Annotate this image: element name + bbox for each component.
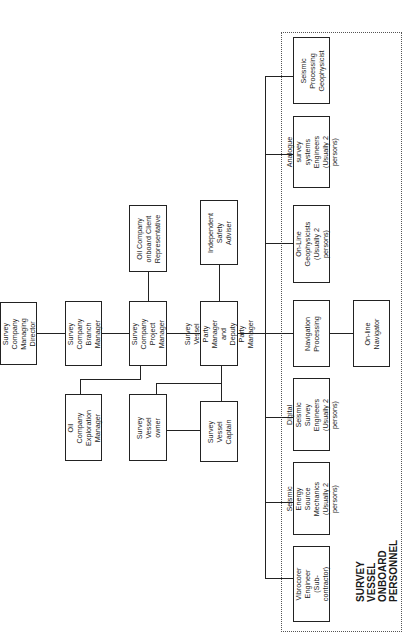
connector	[148, 272, 149, 302]
node-project-manager: Survey Company Project Manager	[129, 301, 167, 366]
node-label: Seismic Energy Source Mechanics (Usually…	[285, 481, 339, 515]
node-digital-engineers: Digital Seismic Survey Engineers (Usuall…	[293, 378, 330, 451]
node-energy-mechanics: Seismic Energy Source Mechanics (Usually…	[293, 462, 330, 535]
node-label: Survey Vessel Party Manager and Deputy P…	[183, 319, 255, 347]
bus-line	[265, 76, 266, 579]
node-label: Survey Company Project Manager	[130, 318, 166, 349]
node-label: Analogue survey systems Engineers (Usual…	[285, 136, 339, 168]
node-online-geophysicists: On-Line Geophysicists (Usually 2 persons…	[293, 205, 330, 283]
connector	[167, 430, 200, 431]
node-managing-director: Survey Company Managing Director	[0, 302, 37, 365]
connector	[80, 379, 141, 380]
node-party-manager: Survey Vessel Party Manager and Deputy P…	[200, 301, 238, 366]
node-online-navigator: On-line Navigator	[353, 300, 390, 367]
node-label: Oil Company onboard Client Representativ…	[135, 214, 162, 262]
connector	[219, 265, 220, 302]
node-label: On-line Navigator	[363, 318, 381, 349]
node-label: Vibrocorer Engineer (Sub-contractor)	[294, 567, 330, 601]
node-navigation-processing: Navigation Processing	[293, 300, 330, 367]
connector	[265, 578, 293, 579]
connector	[330, 333, 353, 334]
connector	[80, 379, 81, 394]
group-label: SURVEY VESSEL ONBOARD PERSONNEL	[355, 537, 399, 602]
node-label: Seismic Processing Geophysicist	[298, 50, 325, 91]
node-label: On-Line Geophysicists (Usually 2 persons…	[294, 222, 330, 267]
node-seismic-processing: Seismic Processing Geophysicist	[293, 37, 330, 104]
node-vessel-owner: Survey Vessel owner	[129, 394, 167, 461]
node-exploration-manager: Oil Company Exploration Manager	[65, 394, 102, 461]
node-label: Oil Company Exploration Manager	[66, 410, 102, 446]
node-label: Navigation Processing	[303, 316, 321, 352]
node-label: Survey Vessel Captain	[206, 419, 233, 444]
connector	[265, 243, 293, 244]
node-branch-manager: Survey Company Branch Manager	[65, 301, 102, 366]
node-label: Digital Seismic Survey Engineers (Usuall…	[285, 398, 339, 430]
connector	[140, 364, 141, 379]
connector	[156, 383, 222, 384]
connector	[265, 76, 293, 77]
node-safety-adviser: Independent Safety Adviser	[200, 200, 238, 265]
node-label: Survey Vessel owner	[135, 416, 162, 438]
node-label: Survey Company Branch Manager	[66, 318, 102, 349]
connector	[265, 333, 293, 334]
node-label: Survey Company Managing Director	[1, 318, 37, 350]
node-analogue-engineers: Analogue survey systems Engineers (Usual…	[293, 116, 330, 188]
node-client-representative: Oil Company onboard Client Representativ…	[129, 205, 167, 272]
node-captain: Survey Vessel Captain	[200, 401, 238, 462]
node-vibrocorer: Vibrocorer Engineer (Sub-contractor)	[293, 546, 330, 622]
node-label: Independent Safety Adviser	[206, 213, 233, 253]
